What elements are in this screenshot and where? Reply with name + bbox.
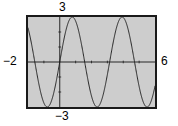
y-axis-min-label: −3 <box>55 110 69 122</box>
plot-window <box>26 15 157 109</box>
x-axis-max-label: 6 <box>161 55 168 67</box>
y-axis-max-label: 3 <box>59 1 66 13</box>
x-axis-min-label: −2 <box>3 55 17 67</box>
graph-figure: 3 −2 6 −3 <box>0 0 178 126</box>
plot-canvas <box>28 17 155 107</box>
